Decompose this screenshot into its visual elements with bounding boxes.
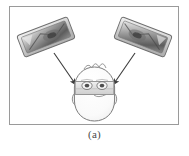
right-arrow: [113, 53, 135, 85]
figure-container: (a): [0, 0, 189, 156]
right-camera-device: [114, 17, 173, 58]
figure-caption: (a): [0, 128, 189, 140]
left-camera-device: [17, 17, 76, 58]
figure-panel-a: [9, 6, 179, 125]
left-arrow: [54, 53, 76, 85]
diagram-canvas: [10, 7, 178, 124]
left-eye-pupil-icon: [85, 84, 90, 88]
subject-head: [72, 64, 116, 121]
right-eye-pupil-icon: [100, 84, 105, 88]
eye-tracking-visor: [75, 82, 114, 95]
